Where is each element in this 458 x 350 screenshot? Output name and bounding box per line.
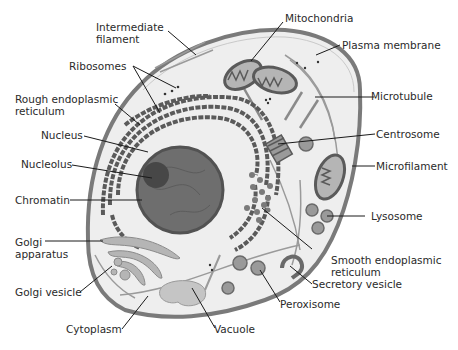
label-centrosome: Centrosome [376, 128, 440, 140]
label-peroxisome: Peroxisome [280, 298, 340, 310]
label-smooth-er: Smooth endoplasmic reticulum [331, 254, 441, 278]
label-chromatin: Chromatin [15, 194, 70, 206]
label-rough-er: Rough endoplasmic reticulum [15, 93, 118, 117]
vacuole-shape [160, 281, 206, 306]
label-intermediate-filament: Intermediate filament [96, 21, 164, 45]
label-ribosomes: Ribosomes [69, 60, 126, 72]
label-vacuole: Vacuole [214, 323, 255, 335]
label-lysosome: Lysosome [371, 210, 423, 222]
label-plasma-membrane: Plasma membrane [342, 39, 441, 51]
label-cytoplasm: Cytoplasm [66, 323, 122, 335]
nucleus-shape [137, 147, 223, 233]
label-microtubule: Microtubule [371, 90, 433, 102]
label-golgi-vesicle: Golgi vesicle [15, 286, 82, 298]
nucleolus-shape [143, 162, 169, 188]
label-golgi-apparatus: Golgi apparatus [15, 236, 68, 260]
label-nucleolus: Nucleolus [21, 158, 72, 170]
label-microfilament: Microfilament [376, 160, 448, 172]
label-secretory-vesicle: Secretory vesicle [312, 278, 402, 290]
label-mitochondria: Mitochondria [285, 12, 353, 24]
label-nucleus: Nucleus [41, 129, 83, 141]
